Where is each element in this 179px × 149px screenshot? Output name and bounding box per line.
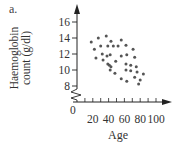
data-point bbox=[114, 60, 117, 63]
data-point bbox=[136, 71, 139, 74]
origin-label: 0 bbox=[70, 104, 76, 116]
data-point bbox=[109, 53, 112, 56]
data-point bbox=[129, 64, 132, 67]
data-point bbox=[99, 45, 102, 48]
axis-break-icon bbox=[71, 89, 81, 102]
data-point bbox=[97, 37, 100, 40]
data-point bbox=[129, 69, 132, 72]
scatter-figure: a. Haemoglobin count (g/dl) 0 810121416 … bbox=[0, 0, 179, 149]
data-point bbox=[90, 41, 93, 44]
x-tick-label: 20 bbox=[87, 113, 99, 125]
data-point bbox=[120, 55, 123, 58]
data-point bbox=[101, 53, 104, 56]
data-point bbox=[117, 45, 120, 48]
x-tick-label: 40 bbox=[103, 113, 115, 125]
y-tick-label: 12 bbox=[59, 48, 71, 60]
data-point bbox=[137, 83, 140, 86]
data-point bbox=[106, 55, 109, 58]
data-points bbox=[90, 35, 145, 86]
y-tick-label: 8 bbox=[64, 80, 70, 92]
x-tick-label: 60 bbox=[119, 113, 131, 125]
data-point bbox=[124, 69, 127, 72]
data-point bbox=[113, 72, 116, 75]
data-point bbox=[132, 48, 135, 51]
data-point bbox=[109, 69, 112, 72]
data-point bbox=[120, 77, 123, 80]
data-point bbox=[102, 59, 105, 62]
plot-area: 0 810121416 20406080100 bbox=[0, 0, 179, 149]
data-point bbox=[94, 57, 97, 60]
y-axis-arrow-icon bbox=[74, 4, 80, 14]
data-point bbox=[106, 45, 109, 48]
data-point bbox=[112, 45, 115, 48]
data-point bbox=[142, 73, 145, 76]
x-axis-label: Age bbox=[108, 128, 128, 143]
y-tick-label: 16 bbox=[59, 16, 71, 28]
data-point bbox=[93, 48, 96, 51]
data-point bbox=[133, 56, 136, 59]
data-point bbox=[105, 35, 108, 38]
y-tick-label: 14 bbox=[59, 32, 71, 44]
x-axis-arrow-icon bbox=[162, 99, 172, 105]
data-point bbox=[133, 76, 136, 79]
data-point bbox=[124, 44, 127, 47]
y-ticks: 810121416 bbox=[59, 16, 78, 92]
data-point bbox=[108, 64, 111, 67]
data-point bbox=[120, 39, 123, 42]
data-point bbox=[125, 53, 128, 56]
data-point bbox=[135, 65, 138, 68]
data-point bbox=[139, 79, 142, 82]
data-point bbox=[124, 63, 127, 66]
data-point bbox=[109, 40, 112, 43]
x-tick-label: 80 bbox=[134, 113, 146, 125]
data-point bbox=[125, 80, 128, 83]
x-tick-label: 100 bbox=[147, 113, 165, 125]
y-tick-label: 10 bbox=[59, 64, 71, 76]
